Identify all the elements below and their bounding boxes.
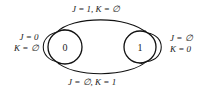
state-node-1[interactable]: 1 <box>124 31 156 63</box>
self-loop-state-0-label: J = 0 K = ∅ <box>14 32 39 54</box>
self-loop-state-0-label-line2: K = ∅ <box>14 43 39 54</box>
self-loop-state-1-label-line1: J = ∅ <box>170 33 193 44</box>
transition-1-to-0-label: J = ∅, K = 1 <box>68 77 116 88</box>
state-node-0[interactable]: 0 <box>48 30 82 64</box>
self-loop-state-1-label: J = ∅ K = 0 <box>170 33 193 55</box>
self-loop-state-1-label-line2: K = 0 <box>170 44 193 55</box>
state-node-1-label: 1 <box>138 42 143 53</box>
transition-0-to-1-label: J = 1, K = ∅ <box>72 4 120 15</box>
self-loop-state-0-label-line1: J = 0 <box>14 32 39 43</box>
state-node-0-label: 0 <box>63 42 68 53</box>
diagram-canvas: 0 1 J = 0 K = ∅ J = ∅ K = 0 J = 1, K = ∅… <box>0 0 200 94</box>
